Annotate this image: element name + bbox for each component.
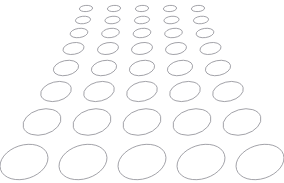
canvas-background <box>0 0 284 183</box>
ellipse-grid-svg <box>0 0 284 183</box>
figure-canvas <box>0 0 284 183</box>
